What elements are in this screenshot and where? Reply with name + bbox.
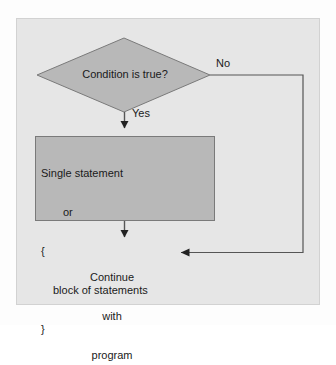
process-line-2: or bbox=[41, 206, 211, 219]
terminal-line-3: program bbox=[72, 349, 152, 362]
terminal-line-2: with bbox=[72, 310, 152, 323]
decision-label: Condition is true? bbox=[70, 68, 180, 81]
terminal-label: Continue with program bbox=[72, 245, 152, 365]
yes-branch-label: Yes bbox=[132, 107, 150, 120]
no-branch-label: No bbox=[216, 57, 230, 70]
terminal-line-1: Continue bbox=[72, 271, 152, 284]
process-line-1: Single statement bbox=[41, 167, 211, 180]
